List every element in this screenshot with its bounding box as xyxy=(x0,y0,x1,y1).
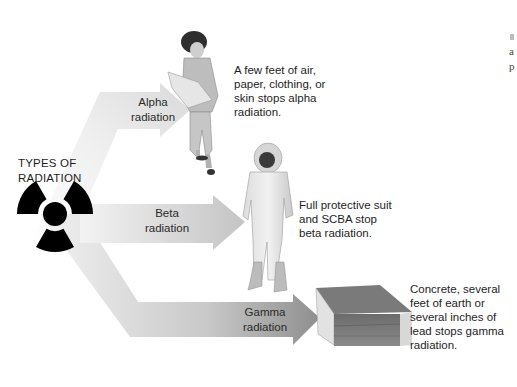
beta-arrow-label: Beta radiation xyxy=(130,206,204,236)
alpha-desc-line-4: radiation. xyxy=(234,105,325,119)
beta-desc-line-3: beta radiation. xyxy=(299,226,392,240)
alpha-label-line-1: Alpha xyxy=(118,95,188,110)
shielding-block-illustration xyxy=(316,285,412,346)
beta-description: Full protective suit and SCBA stop beta … xyxy=(299,198,392,240)
gamma-description: Concrete, several feet of earth or sever… xyxy=(410,282,504,352)
edge-fragment-text: a p xyxy=(509,44,515,74)
alpha-desc-line-3: skin stops alpha xyxy=(234,91,325,105)
gamma-desc-line-2: feet of earth or xyxy=(410,296,504,310)
edge-fragment-2: p xyxy=(509,59,515,74)
alpha-description: A few feet of air, paper, clothing, or s… xyxy=(234,63,325,119)
gamma-desc-line-5: radiation. xyxy=(410,338,504,352)
alpha-arrow-label: Alpha radiation xyxy=(118,95,188,125)
gamma-label-line-2: radiation xyxy=(228,320,302,335)
beta-label-line-2: radiation xyxy=(130,221,204,236)
diagram-title: TYPES OF RADIATION xyxy=(18,156,82,186)
beta-desc-line-2: and SCBA stop xyxy=(299,212,392,226)
gamma-arrow-label: Gamma radiation xyxy=(228,305,302,335)
gamma-desc-line-4: lead stops gamma xyxy=(410,324,504,338)
gamma-desc-line-3: several inches of xyxy=(410,310,504,324)
alpha-desc-line-2: paper, clothing, or xyxy=(234,77,325,91)
beta-desc-line-1: Full protective suit xyxy=(299,198,392,212)
alpha-desc-line-1: A few feet of air, xyxy=(234,63,325,77)
alpha-label-line-2: radiation xyxy=(118,110,188,125)
gamma-desc-line-1: Concrete, several xyxy=(410,282,504,296)
beta-label-line-1: Beta xyxy=(130,206,204,221)
edge-fragment-mark xyxy=(510,34,514,40)
title-line-2: RADIATION xyxy=(18,171,82,186)
title-line-1: TYPES OF xyxy=(18,156,82,171)
protective-suit-figure-illustration xyxy=(243,143,293,292)
edge-fragment-1: a xyxy=(509,44,515,59)
gamma-label-line-1: Gamma xyxy=(228,305,302,320)
